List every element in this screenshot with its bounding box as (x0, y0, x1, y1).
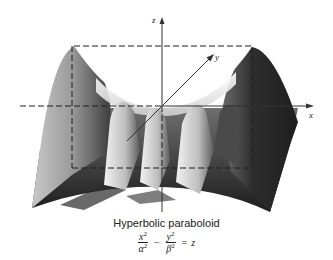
x-axis-label: x (309, 111, 313, 120)
fraction-x: x2 α2 (138, 231, 148, 254)
fraction-y: y2 β2 (166, 231, 176, 254)
equation: x2 α2 − y2 β2 = z (136, 231, 195, 254)
z-axis-arrow-icon (160, 17, 165, 24)
minus-operator: − (154, 237, 160, 248)
y-axis-label: y (215, 53, 219, 62)
rhs-variable: z (191, 237, 195, 248)
z-axis-label: z (152, 16, 156, 25)
equals-operator: = (182, 237, 188, 248)
x-axis-arrow-icon (306, 104, 314, 109)
figure-caption: Hyperbolic paraboloid (0, 217, 333, 229)
